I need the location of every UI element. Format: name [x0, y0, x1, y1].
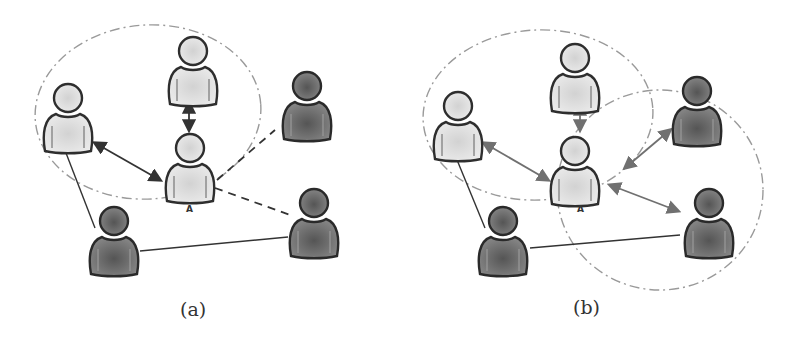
caption-a: (a) — [180, 298, 206, 320]
person-dark-icon — [479, 207, 527, 276]
edge-solid — [455, 155, 485, 228]
edge-double-arrow — [95, 143, 160, 180]
edge-double-arrow — [610, 185, 678, 211]
person-dark-icon — [90, 207, 138, 276]
panel-a — [29, 17, 338, 276]
edge-solid — [530, 235, 680, 248]
edge-dashed — [215, 188, 290, 215]
panel-b — [419, 24, 763, 290]
person-light-icon — [551, 44, 599, 113]
person-light-icon — [166, 134, 214, 203]
person-light-icon — [434, 92, 482, 161]
person-light-icon — [551, 137, 599, 206]
node-label-a: A — [186, 204, 193, 214]
edge-double-arrow — [625, 130, 670, 168]
node-label-b: A — [577, 204, 584, 214]
person-dark-icon — [673, 77, 721, 146]
caption-b: (b) — [573, 296, 600, 318]
edge-solid — [140, 237, 288, 251]
person-light-icon — [44, 84, 92, 153]
person-dark-icon — [290, 189, 338, 258]
network-diagram — [0, 0, 794, 342]
person-dark-icon — [685, 189, 733, 258]
edge-solid — [66, 153, 95, 228]
person-light-icon — [169, 37, 217, 106]
person-dark-icon — [283, 72, 331, 141]
edge-double-arrow — [484, 143, 548, 180]
